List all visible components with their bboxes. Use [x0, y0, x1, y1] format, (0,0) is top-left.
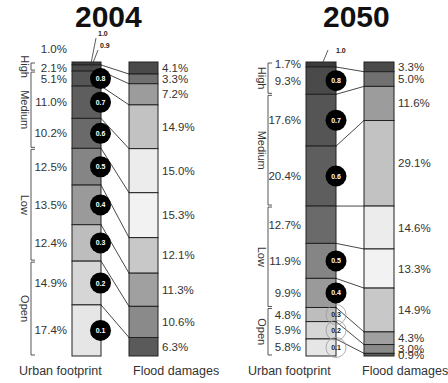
flood-segment [129, 273, 158, 306]
urban-pct-label: 17.6% [268, 114, 301, 126]
decile-callout: 1.0 [98, 30, 108, 37]
flood-segment [364, 288, 394, 332]
svg-text:0.1: 0.1 [331, 344, 341, 351]
urban-pct-label: 12.7% [268, 219, 301, 231]
flood-segment [129, 337, 158, 356]
flood-segment [364, 249, 394, 288]
flood-pct-label: 29.1% [398, 157, 431, 169]
connector-line [336, 67, 364, 72]
flood-segment [364, 345, 394, 354]
urban-pct-label: 1.0% [41, 43, 67, 55]
flood-segment [364, 206, 394, 249]
decile-badge: 0.7 [90, 92, 111, 113]
xlabel-flood-2004: Flood damages [133, 364, 219, 378]
flood-pct-label: 3.3% [162, 73, 188, 85]
flood-segment [364, 72, 394, 87]
flood-pct-label: 13.3% [398, 263, 431, 275]
decile-badge: 0.4 [326, 282, 347, 303]
decile-badge: 0.7 [326, 110, 347, 131]
xlabel-flood-2050: Flood damages [362, 364, 448, 378]
svg-text:0.5: 0.5 [331, 257, 341, 264]
decile-badge: 0.5 [326, 250, 347, 271]
group-label-medium: Medium [256, 131, 268, 170]
svg-text:0.8: 0.8 [331, 77, 341, 84]
svg-text:0.2: 0.2 [96, 280, 106, 287]
connector-line [336, 243, 364, 249]
decile-badge: 0.8 [326, 70, 347, 91]
decile-badge: 0.3 [90, 232, 111, 253]
svg-text:0.1: 0.1 [96, 327, 106, 334]
flood-pct-label: 11.6% [398, 97, 430, 109]
flood-pct-label: 6.3% [162, 341, 188, 353]
svg-text:0.4: 0.4 [331, 289, 341, 296]
svg-text:0.3: 0.3 [96, 239, 106, 246]
decile-badge: 0.8 [90, 68, 111, 89]
callout-line [91, 38, 96, 63]
flood-segment [129, 193, 158, 238]
flood-pct-label: 12.1% [162, 249, 195, 261]
flood-segment [129, 149, 158, 193]
urban-pct-label: 5.1% [41, 73, 67, 85]
urban-pct-label: 13.5% [34, 199, 67, 211]
flood-segment [129, 84, 158, 105]
urban-pct-label: 5.9% [275, 324, 301, 336]
group-label-high: High [19, 55, 31, 78]
urban-pct-label: 1.7% [275, 58, 301, 70]
urban-pct-label: 20.4% [268, 170, 301, 182]
svg-text:0.8: 0.8 [96, 75, 106, 82]
decile-callout: 0.9 [100, 42, 110, 49]
flood-pct-label: 14.9% [398, 304, 431, 316]
flood-pct-label: 7.2% [162, 88, 188, 100]
flood-segment [129, 105, 158, 149]
urban-segment [306, 62, 336, 67]
flood-segment [129, 306, 158, 337]
flood-segment [364, 62, 394, 72]
urban-pct-label: 14.9% [34, 277, 67, 289]
urban-segment [306, 206, 336, 243]
decile-badge: 0.2 [90, 273, 111, 294]
decile-badge: 0.6 [326, 166, 347, 187]
decile-badge: 0.5 [90, 156, 111, 177]
flood-segment [364, 121, 394, 207]
group-label-low: Low [19, 195, 31, 215]
flood-pct-label: 14.9% [162, 121, 195, 133]
urban-pct-label: 4.8% [275, 309, 301, 321]
svg-text:0.7: 0.7 [331, 117, 341, 124]
flood-segment [129, 74, 158, 84]
flood-segment [129, 62, 158, 74]
flood-pct-label: 5.0% [398, 73, 424, 85]
svg-text:0.6: 0.6 [331, 173, 341, 180]
urban-pct-label: 10.2% [34, 127, 67, 139]
group-label-low: Low [256, 247, 268, 267]
urban-pct-label: 11.9% [269, 255, 301, 267]
flood-pct-label: 0.9% [398, 349, 424, 361]
svg-text:0.7: 0.7 [96, 99, 106, 106]
flood-segment [129, 238, 158, 274]
urban-pct-label: 12.4% [34, 237, 67, 249]
flood-pct-label: 15.3% [162, 209, 195, 221]
xlabel-urban-2004: Urban footprint [19, 364, 102, 378]
svg-text:0.5: 0.5 [96, 163, 106, 170]
flood-pct-label: 14.6% [398, 222, 431, 234]
flood-pct-label: 15.0% [162, 165, 195, 177]
decile-badge: 0.4 [90, 194, 111, 215]
svg-text:0.3: 0.3 [331, 311, 341, 318]
flood-segment [364, 86, 394, 120]
decile-badge: 0.6 [90, 123, 111, 144]
decile-badge: 0.1 [90, 320, 111, 341]
urban-pct-label: 17.4% [34, 324, 67, 336]
panel-2050: 1.7%9.3%17.6%20.4%12.7%11.9%9.9%4.8%5.9%… [256, 47, 431, 361]
group-label-high: High [256, 67, 268, 90]
urban-pct-label: 11.0% [35, 96, 67, 108]
group-label-open: Open [19, 295, 31, 322]
svg-text:0.6: 0.6 [96, 130, 106, 137]
urban-pct-label: 9.9% [275, 287, 301, 299]
svg-text:0.4: 0.4 [96, 201, 106, 208]
flood-pct-label: 3.3% [398, 61, 424, 73]
decile-callout: 1.0 [336, 47, 346, 54]
flood-pct-label: 11.3% [162, 284, 194, 296]
group-label-medium: Medium [19, 90, 31, 129]
xlabel-urban-2050: Urban footprint [248, 364, 331, 378]
flood-segment [364, 353, 394, 356]
